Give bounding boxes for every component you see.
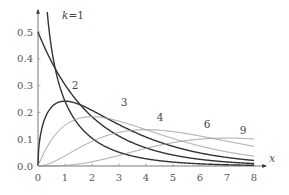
x-tick-label: 1 [62,172,68,183]
x-tick-label: 5 [170,172,176,183]
curve-label-k9: 9 [240,124,247,136]
y-tick-label: 0.2 [17,107,33,118]
curve-label-k3: 3 [121,96,128,108]
y-tick-label: 0.5 [17,27,33,38]
x-tick-label: 6 [197,172,203,183]
x-tick-label: 2 [89,172,95,183]
y-tick-label: 0.1 [17,134,33,145]
y-tick-label: 0.3 [17,80,33,91]
curve-label-k6: 6 [204,118,211,130]
x-tick-label: 4 [143,172,149,183]
y-ticks: 0.00.10.20.30.40.5 [17,27,40,172]
curve-label-k1: k=1 [62,9,84,21]
x-tick-label: 0 [35,172,41,183]
x-tick-label: 7 [224,172,230,183]
curves [38,12,254,166]
x-ticks: 012345678 [35,164,257,184]
x-tick-label: 8 [251,172,257,183]
curve-k3 [38,101,254,166]
curve-k2 [38,32,254,164]
y-tick-label: 0.4 [17,53,33,64]
chi-squared-pdf-chart: x 012345678 0.00.10.20.30.40.5 k=123469 [0,0,289,195]
x-axis-label: x [269,152,276,165]
y-tick-label: 0.0 [17,161,33,172]
curve-label-k2: 2 [72,79,79,91]
curve-label-k4: 4 [157,111,164,123]
x-tick-label: 3 [116,172,122,183]
